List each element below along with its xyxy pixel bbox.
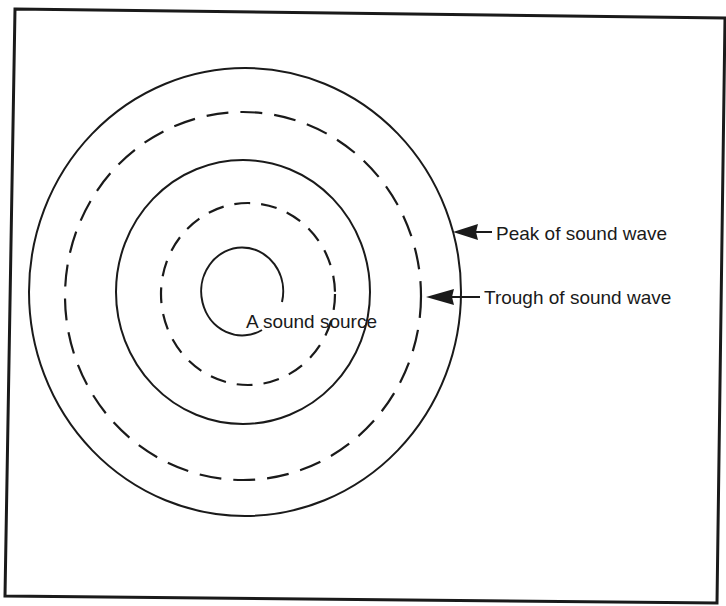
peak-arrow-icon <box>453 224 492 240</box>
trough-arrow-icon <box>426 289 480 305</box>
peak-label: Peak of sound wave <box>496 224 667 243</box>
peak-ring-outer <box>29 68 461 516</box>
trough-ring-inner <box>161 203 335 385</box>
source-label: A sound source <box>246 312 377 331</box>
trough-label: Trough of sound wave <box>484 288 671 307</box>
